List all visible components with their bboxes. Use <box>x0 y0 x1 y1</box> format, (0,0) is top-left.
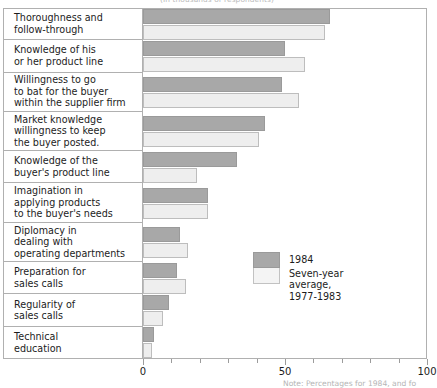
bar-average <box>143 243 188 258</box>
axis-tick-label: 0 <box>140 366 146 377</box>
bar-recent <box>143 77 282 92</box>
category-label: Preparation for sales calls <box>3 266 86 289</box>
axis-tick <box>342 359 343 363</box>
bar-recent <box>143 188 208 203</box>
category-row: Imagination in applying products to the … <box>3 184 142 223</box>
legend-entry-1984: 1984 <box>253 252 373 268</box>
legend-label-seven-year-average: Seven-year average, 1977-1983 <box>280 268 373 302</box>
bar-average <box>143 279 186 294</box>
bar-recent <box>143 227 180 242</box>
category-row: Market knowledge willingness to keep the… <box>3 112 142 151</box>
bar-recent <box>143 41 285 56</box>
category-row: Knowledge of the buyer's product line <box>3 151 142 183</box>
category-row: Diplomacy in dealing with operating depa… <box>3 223 142 262</box>
chart-legend: 1984 Seven-year average, 1977-1983 <box>253 252 373 302</box>
bar-group <box>143 73 427 112</box>
axis-tick <box>313 359 314 363</box>
category-label: Imagination in applying products to the … <box>3 185 113 220</box>
bar-group <box>143 40 427 72</box>
bar-average <box>143 311 163 326</box>
bars-plot-area <box>143 8 427 359</box>
category-row: Technical education <box>3 327 142 359</box>
category-label-column: Thoroughness and follow-throughKnowledge… <box>3 8 143 359</box>
legend-label-1984: 1984 <box>280 252 313 265</box>
category-row: Thoroughness and follow-through <box>3 8 142 40</box>
axis-tick <box>427 359 428 365</box>
bar-group <box>143 151 427 183</box>
category-row: Willingness to go to bat for the buyer w… <box>3 73 142 112</box>
category-row: Knowledge of his or her product line <box>3 40 142 72</box>
bar-average <box>143 57 305 72</box>
bar-group <box>143 112 427 151</box>
bar-recent <box>143 327 154 342</box>
category-row: Regularity of sales calls <box>3 294 142 326</box>
bar-group <box>143 327 427 359</box>
legend-swatch-1984 <box>253 252 280 268</box>
category-row: Preparation for sales calls <box>3 262 142 294</box>
axis-tick-label: 100 <box>417 366 436 377</box>
axis-tick <box>171 359 172 363</box>
axis-tick <box>257 359 258 363</box>
category-label: Thoroughness and follow-through <box>3 12 103 35</box>
axis-tick <box>228 359 229 363</box>
bar-recent <box>143 263 177 278</box>
category-label: Regularity of sales calls <box>3 299 75 322</box>
legend-swatch-seven-year-average <box>253 268 280 284</box>
chart-footnote: Note: Percentages for 1984, and fo <box>283 379 416 388</box>
axis-tick <box>285 359 286 365</box>
bar-average <box>143 204 208 219</box>
bar-group <box>143 8 427 40</box>
bar-recent <box>143 295 169 310</box>
axis-tick-label: 50 <box>279 366 292 377</box>
bar-recent <box>143 152 237 167</box>
axis-tick <box>370 359 371 363</box>
category-label: Knowledge of his or her product line <box>3 44 103 67</box>
bar-average <box>143 343 152 358</box>
bar-group <box>143 184 427 223</box>
bar-recent <box>143 9 330 24</box>
category-label: Market knowledge willingness to keep the… <box>3 114 106 149</box>
legend-entry-seven-year-average: Seven-year average, 1977-1983 <box>253 268 373 302</box>
bar-average <box>143 25 325 40</box>
axis-tick <box>399 359 400 363</box>
axis-tick <box>200 359 201 363</box>
category-label: Knowledge of the buyer's product line <box>3 155 110 178</box>
axis-tick <box>143 359 144 365</box>
bar-recent <box>143 116 265 131</box>
chart-subtitle: (In thousands of respondents) <box>160 0 360 4</box>
bar-average <box>143 168 197 183</box>
bar-average <box>143 93 299 108</box>
category-label: Willingness to go to bat for the buyer w… <box>3 74 126 109</box>
category-label: Technical education <box>3 331 62 354</box>
category-label: Diplomacy in dealing with operating depa… <box>3 225 125 260</box>
bar-average <box>143 132 259 147</box>
